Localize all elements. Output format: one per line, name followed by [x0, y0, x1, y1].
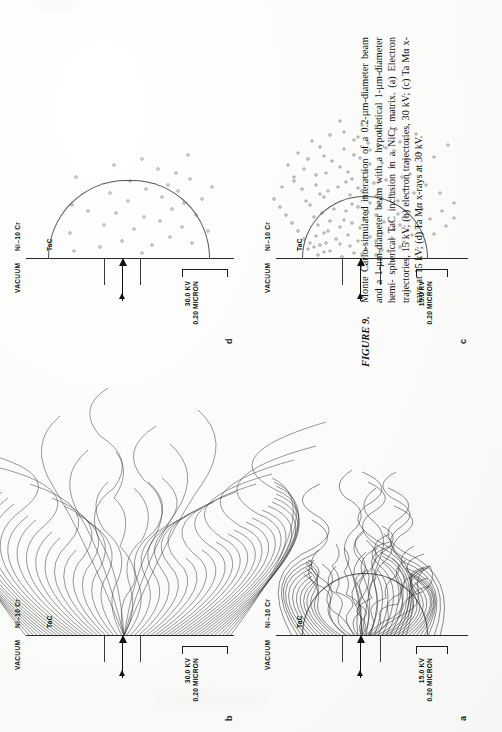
- figure-caption-block: FIGURE 9. Monte Carlo-simulated interact…: [358, 37, 466, 367]
- caption-line-5: (d) Ta Mα x-rays at 30 kV.: [413, 136, 424, 244]
- panel-d: d 30.0 KV0.20 MICRON VACUUM Ni–10 Cr TaC: [12, 37, 252, 337]
- figure-number-label: FIGURE 9.: [360, 316, 371, 367]
- panel-b-trajectories: [12, 384, 252, 714]
- panel-d-letter: d: [224, 339, 234, 345]
- panel-a-letter: a: [458, 716, 468, 721]
- panel-d-xray-dots: [12, 37, 252, 337]
- figure-caption-text: Monte Carlo-simulated interaction of a 0…: [358, 37, 426, 303]
- panel-b-letter: b: [224, 716, 234, 722]
- panel-b: b 30.0 KV0.20 MICRON VACUUM Ni–10 Cr TaC: [12, 384, 252, 714]
- figure-plate: a 15.0 KV0.20 MICRON VACUUM Ni–10 Cr TaC: [0, 0, 502, 732]
